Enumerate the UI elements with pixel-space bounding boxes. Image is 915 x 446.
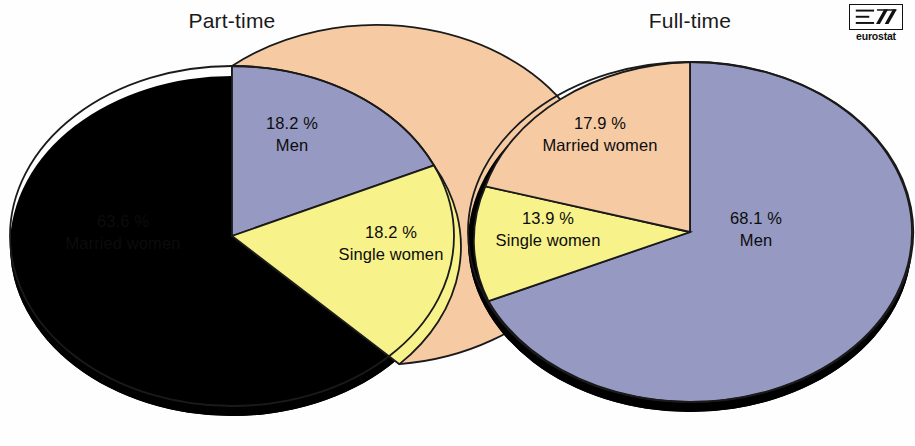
figure-canvas: Part-time Full-time eurostat: [0, 0, 915, 446]
slice-label-full-time-single-women: 13.9 % Single women: [468, 208, 628, 252]
slice-percent-full-time-single-women: 13.9 %: [468, 208, 628, 230]
slice-percent-full-time-men: 68.1 %: [696, 208, 816, 230]
slice-percent-part-time-single-women: 18.2 %: [306, 222, 476, 244]
slice-percent-full-time-married-women: 17.9 %: [512, 113, 688, 135]
slice-name-full-time-married-women: Married women: [512, 135, 688, 157]
slice-label-part-time-single-women: 18.2 % Single women: [306, 222, 476, 266]
slice-name-full-time-men: Men: [696, 230, 816, 252]
slice-name-part-time-men: Men: [232, 135, 352, 157]
slice-percent-part-time-men: 18.2 %: [232, 113, 352, 135]
slice-name-part-time-single-women: Single women: [306, 244, 476, 266]
slice-name-part-time-married-women: Married women: [28, 233, 218, 255]
slice-label-part-time-married-women: 63.6 % Married women: [28, 211, 218, 255]
slice-label-part-time-men: 18.2 % Men: [232, 113, 352, 157]
slice-name-full-time-single-women: Single women: [468, 230, 628, 252]
slice-percent-part-time-married-women: 63.6 %: [28, 211, 218, 233]
slice-label-full-time-men: 68.1 % Men: [696, 208, 816, 252]
slice-label-full-time-married-women: 17.9 % Married women: [512, 113, 688, 157]
